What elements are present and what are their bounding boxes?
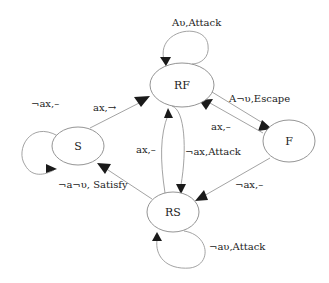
label-rs-self: ¬aυ,Attack <box>209 241 266 252</box>
node-s-label: S <box>74 140 82 153</box>
edge-rs-rf <box>162 115 168 193</box>
node-f-label: F <box>285 135 293 148</box>
node-rf-label: RF <box>174 79 190 92</box>
label-rf-f: A¬υ,Escape <box>228 93 290 104</box>
arrow-rs-self <box>152 232 162 241</box>
label-f-rf: ax,– <box>211 121 231 132</box>
node-f[interactable]: F <box>263 120 315 162</box>
state-diagram: S RF F RS Aυ,Attack ¬ax,– ax,→ A¬υ,Escap… <box>0 0 329 283</box>
edge-f-rs <box>202 158 270 197</box>
label-s-rf: ax,→ <box>93 102 117 113</box>
node-rf[interactable]: RF <box>150 63 214 107</box>
label-s-self: ¬ax,– <box>31 98 59 109</box>
label-rs-s: ¬a¬υ, Satisfy <box>58 179 128 190</box>
arrow-f-rs <box>195 190 208 201</box>
edge-rf-rs <box>172 106 184 185</box>
edge-rf-self <box>163 31 208 66</box>
node-s[interactable]: S <box>52 127 104 165</box>
label-rs-rf: ax,– <box>136 144 156 155</box>
label-rf-rs: ¬ax,Attack <box>185 146 242 157</box>
node-rs[interactable]: RS <box>147 192 199 232</box>
arrow-rs-s <box>97 163 111 174</box>
node-rs-label: RS <box>165 206 181 219</box>
label-f-rs: ¬ax,– <box>235 179 263 190</box>
label-rf-self: Aυ,Attack <box>171 17 222 28</box>
arrow-rs-rf <box>164 108 173 118</box>
edge-rs-self <box>157 231 205 268</box>
arrow-s-rf <box>134 96 150 107</box>
